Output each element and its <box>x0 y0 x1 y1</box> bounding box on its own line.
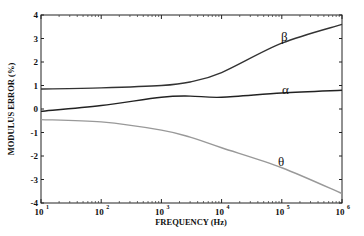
x-tick-label: 10 <box>35 207 45 217</box>
curve-series-1 <box>41 90 342 111</box>
plot-area <box>41 15 342 203</box>
curve-label-2: θ <box>278 154 284 169</box>
x-tick-label: 10 <box>336 207 346 217</box>
y-tick-label: 0 <box>34 104 39 114</box>
x-axis-title: FREQUENCY (Hz) <box>155 217 227 227</box>
modulus-error-chart: βαθ43210-1-2-3-4101102103104105106 FREQU… <box>0 0 364 236</box>
y-tick-label: 2 <box>34 57 39 67</box>
data-curves <box>41 24 342 193</box>
x-tick-exponent: 2 <box>106 204 109 210</box>
curve-label-0: β <box>281 29 288 44</box>
y-tick-label: -1 <box>31 128 39 138</box>
curve-label-1: α <box>282 82 289 97</box>
x-tick-label: 10 <box>215 207 225 217</box>
x-tick-exponent: 4 <box>227 204 230 210</box>
tick-labels: βαθ43210-1-2-3-4101102103104105106 <box>31 10 351 217</box>
y-tick-label: 1 <box>34 81 39 91</box>
y-tick-label: -3 <box>31 175 39 185</box>
y-tick-label: 3 <box>34 34 39 44</box>
plot-border <box>41 15 342 203</box>
curve-series-0 <box>41 24 342 89</box>
x-tick-exponent: 5 <box>287 204 290 210</box>
y-tick-label: 4 <box>34 10 39 20</box>
x-tick-exponent: 3 <box>166 204 169 210</box>
x-tick-label: 10 <box>155 207 165 217</box>
y-tick-label: -2 <box>31 151 39 161</box>
x-tick-exponent: 1 <box>46 204 49 210</box>
x-tick-label: 10 <box>95 207 105 217</box>
y-axis-title: MODULUS ERROR (%) <box>6 63 16 156</box>
x-tick-label: 10 <box>275 207 285 217</box>
axis-ticks <box>41 15 342 203</box>
x-tick-exponent: 6 <box>347 204 350 210</box>
curve-series-2 <box>41 120 342 194</box>
